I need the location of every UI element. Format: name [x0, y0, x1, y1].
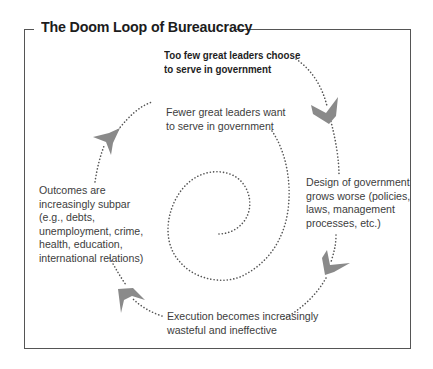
stage-leaders-choose-line-1: Too few great leaders choose	[164, 49, 300, 63]
stage-design-line-3: laws, management	[306, 203, 410, 217]
stage-execution-line-2: wasteful and ineffective	[167, 324, 318, 338]
dotted-path-design-upper	[330, 118, 339, 175]
stage-outcomes-line-4: unemployment, crime,	[39, 225, 143, 239]
dotted-path-to-design	[296, 59, 327, 106]
stage-outcomes: Outcomes are increasingly subpar (e.g., …	[39, 184, 143, 266]
arrow-to-outcomes	[118, 288, 145, 313]
stage-outcomes-line-5: health, education,	[39, 238, 143, 252]
dotted-path-outcomes-upper	[95, 146, 104, 182]
stage-outcomes-line-2: increasingly subpar	[39, 198, 143, 212]
stage-leaders-choose: Too few great leaders choose to serve in…	[164, 49, 300, 76]
arrow-to-design	[311, 97, 338, 124]
dotted-spiral	[168, 131, 289, 280]
stage-outcomes-line-1: Outcomes are	[39, 184, 143, 198]
stage-outcomes-line-3: (e.g., debts,	[39, 211, 143, 225]
stage-design: Design of government grows worse (polici…	[306, 176, 410, 230]
arrow-to-execution	[322, 250, 350, 275]
stage-design-line-2: grows worse (policies,	[306, 190, 410, 204]
stage-execution: Execution becomes increasingly wasteful …	[167, 310, 318, 337]
stage-outcomes-line-6: international relations)	[39, 252, 143, 266]
stage-leaders-choose-line-2: to serve in government	[164, 63, 300, 77]
stage-design-line-4: processes, etc.)	[306, 217, 410, 231]
dotted-path-design-lower	[331, 235, 336, 262]
stage-design-line-1: Design of government	[306, 176, 410, 190]
stage-leaders-want-line-1: Fewer great leaders want	[166, 106, 286, 120]
dotted-path-to-leaders-want	[118, 102, 152, 130]
stage-execution-line-1: Execution becomes increasingly	[167, 310, 318, 324]
stage-leaders-want-line-2: to serve in government	[166, 120, 286, 134]
arrow-to-leaders-want	[93, 128, 120, 155]
stage-leaders-want: Fewer great leaders want to serve in gov…	[166, 106, 286, 133]
dotted-path-from-execution	[132, 298, 162, 316]
